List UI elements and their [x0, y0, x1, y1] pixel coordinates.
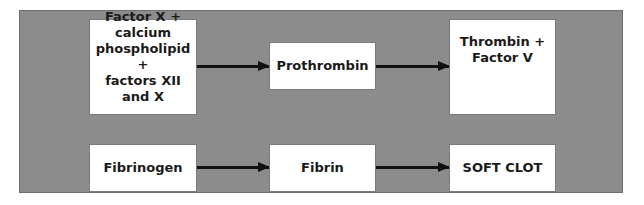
node-fibrinogen: Fibrinogen [89, 144, 197, 192]
arrow-prothrombin-to-thrombin [376, 65, 449, 68]
node-label: Factor X + calcium phospholipid + factor… [90, 9, 196, 105]
arrow-factor-x-to-prothrombin [197, 65, 269, 68]
node-prothrombin: Prothrombin [269, 42, 376, 90]
arrow-fibrin-to-soft-clot [376, 166, 449, 169]
node-label: Thrombin + Factor V [460, 34, 545, 66]
node-label: Fibrinogen [103, 160, 182, 176]
node-fibrin: Fibrin [269, 144, 376, 192]
node-label: Fibrin [301, 160, 344, 176]
arrow-fibrinogen-to-fibrin [197, 166, 269, 169]
node-soft-clot: SOFT CLOT [449, 144, 556, 192]
node-factor-x-complex: Factor X + calcium phospholipid + factor… [89, 19, 197, 115]
node-label: Prothrombin [276, 58, 368, 74]
node-thrombin-factor-v: Thrombin + Factor V [449, 19, 556, 115]
node-label: SOFT CLOT [463, 160, 543, 176]
